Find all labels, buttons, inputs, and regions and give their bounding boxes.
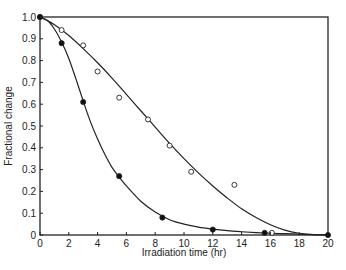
filled-data-point: [160, 215, 165, 220]
y-tick-label: 0.7: [22, 77, 36, 88]
y-tick-label: 0.3: [22, 164, 36, 175]
filled-series-curve: [40, 17, 328, 235]
x-tick-label: 20: [322, 238, 334, 249]
y-tick-label: 0.2: [22, 186, 36, 197]
y-tick-label: 0.6: [22, 99, 36, 110]
filled-data-point: [81, 99, 86, 104]
y-tick-label: 0.1: [22, 208, 36, 219]
x-tick-label: 2: [66, 238, 72, 249]
x-tick-label: 0: [37, 238, 43, 249]
fitted-curves: [40, 17, 328, 235]
y-tick-label: 0.5: [22, 121, 36, 132]
x-tick-label: 14: [236, 238, 248, 249]
filled-data-point: [117, 174, 122, 179]
x-axis-title: Irradiation time (hr): [142, 247, 226, 258]
open-data-point: [189, 169, 194, 174]
y-tick-label: 0.4: [22, 142, 36, 153]
y-tick-label: 1.0: [22, 12, 36, 23]
y-tick-label: 0.9: [22, 33, 36, 44]
filled-data-point: [262, 230, 267, 235]
x-tick-label: 16: [265, 238, 277, 249]
plot-border: [40, 17, 328, 235]
x-tick-label: 18: [294, 238, 306, 249]
x-tick-label: 6: [124, 238, 130, 249]
open-data-point: [232, 182, 237, 187]
y-tick-label: 0.8: [22, 55, 36, 66]
y-tick-label: 0: [30, 230, 36, 241]
filled-data-point: [59, 41, 64, 46]
plot-frame: [40, 17, 328, 235]
x-tick-label: 4: [95, 238, 101, 249]
open-data-point: [81, 43, 86, 48]
filled-data-point: [210, 227, 215, 232]
open-data-point: [117, 95, 122, 100]
y-axis-title: Fractional change: [3, 86, 14, 166]
open-data-point: [167, 143, 172, 148]
chart-figure: 02468101214161820 00.10.20.30.40.50.60.7…: [0, 0, 346, 270]
open-series-curve: [40, 17, 328, 235]
open-data-point: [95, 69, 100, 74]
open-data-point: [146, 117, 151, 122]
data-points: [37, 14, 330, 237]
open-data-point: [59, 28, 64, 33]
